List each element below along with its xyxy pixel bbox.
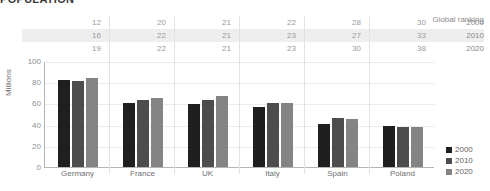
rank-value-france: 22 [109, 29, 166, 42]
rank-value-poland: 33 [369, 29, 426, 42]
rank-year-2000: 2000 [466, 16, 484, 29]
bars [45, 61, 110, 167]
y-axis-tick: 40 [32, 122, 41, 130]
bar-uk-2020 [216, 96, 228, 167]
rank-value-germany: 12 [44, 16, 101, 29]
rank-value-france: 20 [109, 16, 166, 29]
bar-spain-2010 [332, 118, 344, 167]
rank-value-uk: 21 [174, 16, 231, 29]
bar-germany-2010 [72, 81, 84, 167]
bar-poland-2010 [397, 127, 409, 167]
y-axis-tick: 20 [32, 143, 41, 151]
group-separator [174, 16, 175, 174]
x-axis-label-germany: Germany [45, 169, 110, 178]
bar-italy-2010 [267, 103, 279, 167]
rank-value-italy: 23 [239, 42, 296, 55]
page-title: POPULATION [0, 0, 200, 5]
bar-spain-2020 [346, 119, 358, 167]
bar-group-poland: Poland [370, 61, 435, 167]
bar-poland-2000 [383, 126, 395, 167]
x-axis-label-poland: Poland [370, 169, 435, 178]
bar-poland-2020 [411, 127, 423, 167]
group-separator [369, 16, 370, 174]
rank-value-uk: 21 [174, 29, 231, 42]
bar-group-france: France [110, 61, 175, 167]
rank-value-france: 22 [109, 42, 166, 55]
legend-item-2000[interactable]: 2000 [446, 145, 473, 154]
rank-year-2020: 2020 [466, 42, 484, 55]
bar-germany-2020 [86, 78, 98, 167]
bar-uk-2010 [202, 100, 214, 167]
chart-page: POPULATION Global ranking 12202122283020… [0, 0, 490, 191]
bar-italy-2000 [253, 107, 265, 167]
y-axis-tick: 60 [32, 100, 41, 108]
y-axis-label: Millions [4, 69, 13, 96]
table-row: 1220212228302000 [0, 16, 490, 29]
bar-france-2010 [137, 100, 149, 167]
x-axis-label-uk: UK [175, 169, 240, 178]
legend-item-2020[interactable]: 2020 [446, 167, 473, 176]
bars [175, 61, 240, 167]
rank-value-spain: 28 [304, 16, 361, 29]
legend-label-2000: 2000 [455, 146, 473, 154]
table-row: 1922212330382020 [0, 42, 490, 55]
bar-group-germany: Germany [45, 61, 110, 167]
legend-item-2010[interactable]: 2010 [446, 156, 473, 165]
rank-value-poland: 30 [369, 16, 426, 29]
y-axis-tick: 80 [32, 79, 41, 87]
chart-legend: 200020102020 [446, 145, 473, 178]
rank-value-spain: 30 [304, 42, 361, 55]
bars [240, 61, 305, 167]
bars [305, 61, 370, 167]
bar-spain-2000 [318, 124, 330, 167]
legend-swatch-2020 [446, 169, 452, 175]
group-separator [304, 16, 305, 174]
bar-group-uk: UK [175, 61, 240, 167]
bars [370, 61, 435, 167]
group-separator [109, 16, 110, 174]
legend-swatch-2010 [446, 158, 452, 164]
rank-value-uk: 21 [174, 42, 231, 55]
bars [110, 61, 175, 167]
legend-label-2010: 2010 [455, 157, 473, 165]
group-separator [239, 16, 240, 174]
x-axis-label-france: France [110, 169, 175, 178]
bar-italy-2020 [281, 103, 293, 167]
rank-value-germany: 19 [44, 42, 101, 55]
rank-value-italy: 22 [239, 16, 296, 29]
legend-label-2020: 2020 [455, 168, 473, 176]
rank-value-italy: 23 [239, 29, 296, 42]
rank-value-poland: 38 [369, 42, 426, 55]
rank-value-spain: 27 [304, 29, 361, 42]
x-axis-label-spain: Spain [305, 169, 370, 178]
y-axis-tick: 0 [37, 164, 41, 172]
chart-title-clipped: POPULATION [0, 0, 200, 7]
bar-uk-2000 [188, 104, 200, 167]
y-axis-tick: 100 [28, 58, 41, 66]
bar-germany-2000 [58, 80, 70, 167]
rank-year-2010: 2010 [466, 29, 484, 42]
x-axis-label-italy: Italy [240, 169, 305, 178]
bar-france-2020 [151, 98, 163, 167]
bar-group-spain: Spain [305, 61, 370, 167]
bar-group-italy: Italy [240, 61, 305, 167]
table-row: 1622212327332010 [0, 29, 490, 42]
rank-value-germany: 16 [44, 29, 101, 42]
legend-swatch-2000 [446, 147, 452, 153]
global-ranking-table: Global ranking 1220212228302000162221232… [0, 14, 490, 59]
bar-france-2000 [123, 103, 135, 167]
